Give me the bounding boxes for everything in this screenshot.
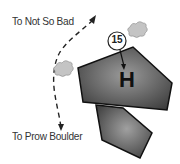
lower-boulder xyxy=(96,105,152,158)
arrow-down-icon xyxy=(58,124,64,131)
bush-icon xyxy=(54,61,74,77)
problem-number: 15 xyxy=(108,34,126,45)
topo-diagram xyxy=(0,0,180,164)
bush-icon xyxy=(128,22,148,38)
problem-letter: H xyxy=(112,67,142,93)
